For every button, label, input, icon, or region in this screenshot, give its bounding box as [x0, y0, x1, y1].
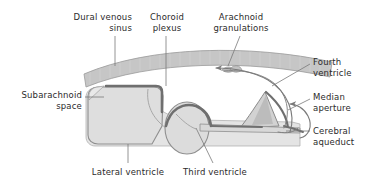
label-fourth-ventricle: Fourth ventricle [313, 57, 375, 78]
label-arachnoid-granulations: Arachnoid granulations [203, 12, 279, 33]
label-cerebral-aqueduct: Cerebral aqueduct [313, 126, 375, 147]
label-lateral-ventricle: Lateral ventricle [88, 167, 168, 178]
label-subarachnoid-space: Subarachnoid space [6, 90, 82, 111]
label-third-ventricle: Third ventricle [178, 167, 252, 178]
label-choroid-plexus: Choroid plexus [137, 12, 197, 33]
label-median-aperture: Median aperture [313, 92, 375, 113]
dural-sinus-shape [84, 50, 332, 87]
lateral-ventricle-shape [88, 87, 163, 144]
csf-circulation-figure: Dural venous sinus Choroid plexus Arachn… [0, 0, 376, 185]
choroid-plexus-fourth [211, 126, 262, 127]
lateral-ventricle-body [88, 86, 166, 144]
label-dural-venous-sinus: Dural venous sinus [46, 12, 132, 33]
